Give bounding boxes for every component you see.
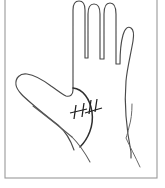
hand-illustration-canvas	[0, 0, 165, 188]
hand-illustration-figure	[0, 0, 165, 188]
